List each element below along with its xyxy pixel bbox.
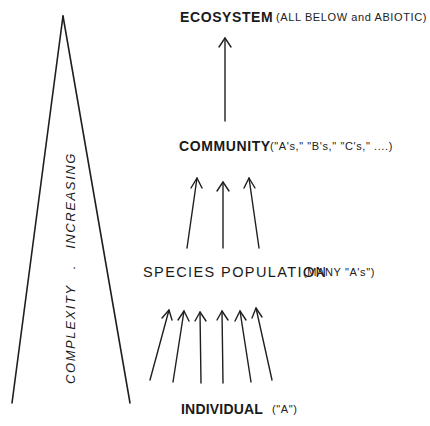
arrow-up-icon xyxy=(187,178,202,248)
level-note-species-population: (MANY "A's") xyxy=(303,267,375,278)
axis-label-word2: INCREASING xyxy=(63,152,78,249)
level-note-ecosystem: (ALL BELOW and ABIOTIC) xyxy=(276,12,427,23)
level-note-individual: ("A") xyxy=(272,404,297,415)
arrow-up-icon xyxy=(173,311,189,382)
complexity-increasing-label: COMPLEXITY . INCREASING xyxy=(63,152,78,384)
arrow-up-icon xyxy=(150,310,172,380)
ecological-hierarchy-diagram: ECOSYSTEM (ALL BELOW and ABIOTIC) COMMUN… xyxy=(0,0,430,426)
level-label-species-population: SPECIES POPULATION xyxy=(143,265,327,280)
arrows-individual-to-population xyxy=(150,308,272,383)
axis-label-word1: COMPLEXITY xyxy=(63,285,78,385)
arrow-up-icon xyxy=(217,311,228,383)
level-label-ecosystem: ECOSYSTEM xyxy=(180,10,273,24)
arrow-up-icon xyxy=(235,311,251,382)
arrow-up-icon xyxy=(217,182,229,248)
arrow-community-to-ecosystem xyxy=(219,38,231,121)
arrows-population-to-community xyxy=(187,178,259,248)
arrow-up-icon xyxy=(195,312,206,383)
axis-label-separator: . xyxy=(63,264,78,269)
level-label-individual: INDIVIDUAL xyxy=(181,402,263,416)
level-label-community: COMMUNITY xyxy=(179,139,271,153)
level-note-community: ("A's," "B's," "C's," ....) xyxy=(270,141,393,152)
arrow-up-icon xyxy=(244,178,259,248)
arrow-up-icon xyxy=(252,308,272,380)
